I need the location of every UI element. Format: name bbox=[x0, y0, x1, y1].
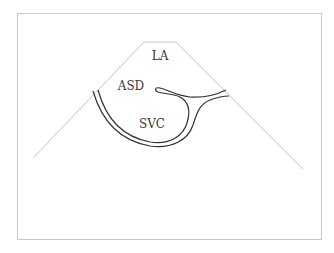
label-svc: SVC bbox=[139, 117, 165, 131]
echo-diagram: LA ASD SVC bbox=[0, 0, 334, 253]
label-asd: ASD bbox=[117, 79, 145, 93]
label-la: LA bbox=[152, 49, 169, 63]
